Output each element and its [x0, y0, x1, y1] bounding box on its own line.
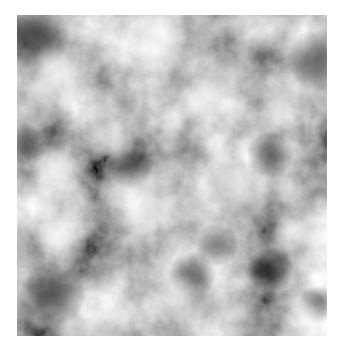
image-canvas — [0, 0, 343, 351]
cloud-noise-texture — [17, 15, 327, 336]
noise-layer — [17, 15, 327, 336]
